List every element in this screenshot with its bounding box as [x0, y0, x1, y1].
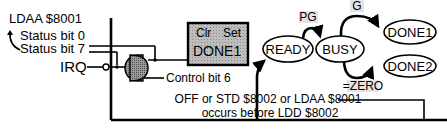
irq-label: IRQ [60, 58, 87, 75]
status-bit-7-label: Status bit 7 [20, 41, 85, 56]
reset-note: OFF or STD $8002 or LDAA $8001 occurs be… [175, 92, 424, 120]
state-done1-label: DONE1 [388, 25, 433, 40]
transition-pg-label: PG [299, 10, 316, 24]
transition-g-label: G [352, 0, 361, 13]
state-busy-label: BUSY [322, 42, 358, 57]
transition-g-arrow [341, 16, 378, 36]
inverter-bubble-icon [103, 64, 109, 70]
junction-dot-2 [153, 58, 157, 62]
ldaa-label: LDAA $8001 [9, 11, 82, 26]
junction-dot [115, 65, 119, 69]
reset-note-line2: occurs before LDD $8002 [202, 106, 339, 120]
register-name: DONE1 [193, 43, 241, 59]
register-clr-label: Clr [196, 26, 211, 40]
reset-note-line1: OFF or STD $8002 or LDAA $8001 [175, 92, 362, 106]
register-set-label: Set [223, 26, 242, 40]
clear-arrowhead-icon [7, 30, 13, 35]
control-bit-6-label: Control bit 6 [166, 71, 231, 85]
left-labels: LDAA $8001 Status bit 0 Status bit 7 IRQ [7, 11, 87, 75]
state-ready-label: READY [266, 42, 311, 57]
state-diagram: LDAA $8001 Status bit 0 Status bit 7 IRQ [0, 0, 447, 138]
transition-zero-arrow [344, 62, 372, 78]
state-done2-label: DONE2 [388, 59, 433, 74]
done1-register: Clr Set DONE1 [188, 23, 248, 65]
transition-zero-label: =ZERO [343, 79, 383, 93]
and-gate-body [130, 55, 148, 81]
transition-pg-arrow [303, 28, 320, 38]
